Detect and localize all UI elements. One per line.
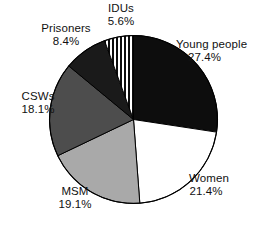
slice-label-women: Women 21.4% <box>189 172 229 198</box>
slice-label-msm: MSM 19.1% <box>47 185 103 211</box>
slice-label-name: Young people <box>176 38 247 51</box>
slice-label-name: MSM <box>47 185 103 198</box>
slice-label-name: CSWs <box>9 90 67 103</box>
slice-label-percent: 19.1% <box>47 198 103 211</box>
slice-label-young-people: Young people 27.4% <box>176 38 247 64</box>
slice-label-percent: 27.4% <box>176 51 247 64</box>
slice-label-percent: 8.4% <box>30 35 102 48</box>
slice-label-csws: CSWs 18.1% <box>9 90 67 116</box>
slice-label-name: IDUs <box>92 2 150 15</box>
pie-chart: Young people 27.4% Women 21.4% MSM 19.1%… <box>0 0 265 225</box>
slice-label-percent: 21.4% <box>189 185 229 198</box>
slice-label-name: Women <box>189 172 229 185</box>
slice-label-percent: 5.6% <box>92 15 150 28</box>
slice-label-percent: 18.1% <box>9 103 67 116</box>
slice-label-idus: IDUs 5.6% <box>92 2 150 28</box>
